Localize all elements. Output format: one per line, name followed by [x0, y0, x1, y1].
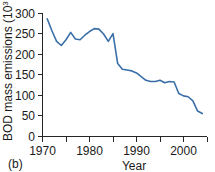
y-axis-title: BOD mass emissions (103 mt)	[1, 0, 15, 141]
y-tick-label: 0	[28, 130, 35, 144]
x-tick-label: 1980	[76, 144, 103, 158]
y-tick-label: 200	[15, 48, 35, 62]
bod-emissions-line-chart: 300 250 200 150 100 50 0 1970 1980 1990 …	[0, 0, 215, 172]
x-tick-label: 1990	[123, 144, 150, 158]
x-axis-title: Year	[122, 159, 146, 172]
x-tick-label: 2000	[170, 144, 197, 158]
y-axis-title-main: BOD mass emissions (10	[1, 5, 15, 141]
data-series-line	[47, 19, 202, 114]
panel-label: (b)	[8, 157, 23, 171]
y-axis-ticks	[38, 14, 43, 137]
x-tick-label: 1970	[29, 144, 56, 158]
y-tick-label: 100	[15, 89, 35, 103]
y-axis-title-tail: mt)	[1, 0, 15, 1]
figure-panel-b: 300 250 200 150 100 50 0 1970 1980 1990 …	[0, 0, 215, 172]
x-axis-tick-labels: 1970 1980 1990 2000	[29, 144, 197, 158]
x-axis-ticks	[43, 137, 208, 143]
y-tick-label: 300	[15, 7, 35, 21]
y-tick-label: 150	[15, 68, 35, 82]
y-tick-label: 50	[22, 109, 36, 123]
y-axis-tick-labels: 300 250 200 150 100 50 0	[15, 7, 35, 144]
y-tick-label: 250	[15, 27, 35, 41]
